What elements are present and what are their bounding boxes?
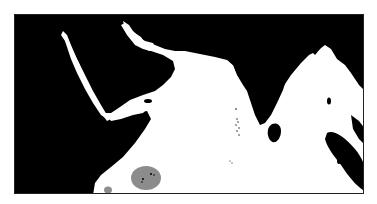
indian-ocean-map (15, 15, 364, 194)
mentawai-island-3 (337, 158, 341, 164)
small-highlight-zone (104, 187, 112, 194)
andaman-islands (327, 98, 331, 105)
seychelles-zone (131, 166, 161, 190)
mentawai-island-2 (334, 150, 337, 154)
map-frame (14, 14, 364, 194)
socotra (144, 99, 152, 103)
mentawai-island-1 (330, 144, 333, 147)
